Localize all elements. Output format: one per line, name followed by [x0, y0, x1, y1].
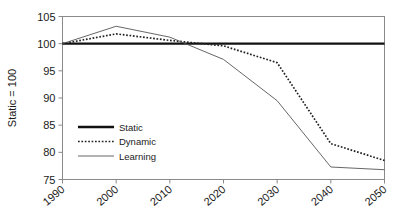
y-tick-label: 85: [43, 119, 55, 131]
line-chart: 7580859095100105 19902000201020202030204…: [0, 0, 404, 219]
legend-label-learning: Learning: [119, 151, 156, 162]
y-tick-label: 90: [43, 92, 55, 104]
y-tick-label: 80: [43, 146, 55, 158]
y-tick-label: 100: [37, 38, 55, 50]
chart-container: 7580859095100105 19902000201020202030204…: [0, 0, 404, 219]
y-tick-label: 75: [43, 174, 55, 186]
y-axis-title: Static = 100: [6, 69, 18, 127]
legend-label-static: Static: [119, 122, 143, 133]
y-tick-label: 105: [37, 11, 55, 23]
y-tick-label: 95: [43, 65, 55, 77]
legend-label-dynamic: Dynamic: [119, 136, 156, 147]
